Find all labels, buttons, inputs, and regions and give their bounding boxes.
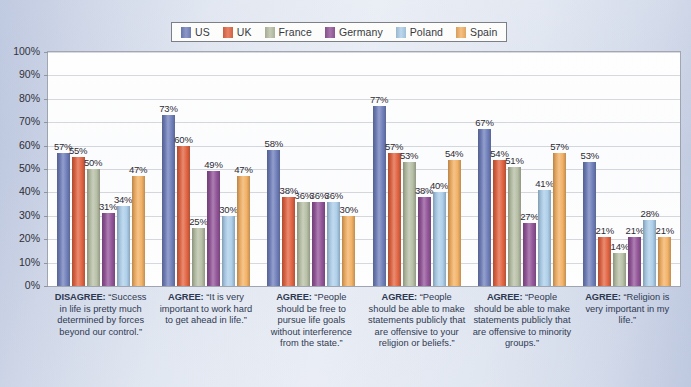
y-axis-tick-label: 70% — [0, 115, 40, 127]
bar-value-label: 55% — [69, 145, 87, 156]
bar-france[interactable]: 50% — [87, 169, 100, 286]
legend-swatch-icon — [396, 27, 406, 38]
legend-item-germany: Germany — [325, 26, 383, 38]
bar-slot: 55% — [72, 52, 85, 286]
y-axis-tick-label: 60% — [0, 139, 40, 151]
bar-germany[interactable]: 36% — [312, 202, 325, 286]
bar-poland[interactable]: 40% — [433, 192, 446, 286]
bar-slot: 57% — [388, 52, 401, 286]
legend-item-uk: UK — [223, 26, 252, 38]
bar-slot: 28% — [643, 52, 656, 286]
bar-poland[interactable]: 36% — [327, 202, 340, 286]
bar-slot: 57% — [57, 52, 70, 286]
legend-swatch-icon — [223, 27, 233, 38]
bar-value-label: 28% — [641, 208, 659, 219]
y-axis-tick-label: 90% — [0, 68, 40, 80]
bar-slot: 47% — [237, 52, 250, 286]
bar-uk[interactable]: 55% — [72, 157, 85, 286]
bar-slot: 34% — [117, 52, 130, 286]
bar-value-label: 54% — [445, 148, 463, 159]
y-axis-tick-label: 100% — [0, 45, 40, 57]
bar-value-label: 34% — [114, 194, 132, 205]
legend-swatch-icon — [456, 27, 466, 38]
y-axis-tick-label: 80% — [0, 92, 40, 104]
bar-spain[interactable]: 21% — [658, 237, 671, 286]
y-axis-tick-label: 50% — [0, 162, 40, 174]
bar-germany[interactable]: 27% — [523, 223, 536, 286]
bar-slot: 57% — [553, 52, 566, 286]
bar-france[interactable]: 51% — [508, 167, 521, 286]
bar-value-label: 51% — [505, 155, 523, 166]
bar-germany[interactable]: 31% — [102, 213, 115, 286]
bar-uk[interactable]: 60% — [177, 146, 190, 286]
bar-poland[interactable]: 28% — [643, 220, 656, 286]
legend-item-poland: Poland — [396, 26, 443, 38]
bar-spain[interactable]: 54% — [448, 160, 461, 286]
bar-value-label: 27% — [520, 211, 538, 222]
bar-slot: 27% — [523, 52, 536, 286]
category-labels: DISAGREE: “Success in life is pretty muc… — [48, 292, 680, 350]
bar-slot: 38% — [282, 52, 295, 286]
bar-us[interactable]: 53% — [583, 162, 596, 286]
bar-poland[interactable]: 41% — [538, 190, 551, 286]
bar-poland[interactable]: 30% — [222, 216, 235, 286]
bar-value-label: 50% — [84, 157, 102, 168]
bar-spain[interactable]: 30% — [342, 216, 355, 286]
bar-slot: 54% — [448, 52, 461, 286]
bar-value-label: 30% — [219, 204, 237, 215]
bar-us[interactable]: 73% — [162, 115, 175, 286]
bar-uk[interactable]: 38% — [282, 197, 295, 286]
bar-spain[interactable]: 47% — [237, 176, 250, 286]
bar-value-label: 58% — [265, 138, 283, 149]
category-label-3: AGREE: “People should be free to pursue … — [259, 292, 364, 350]
bar-slot: 38% — [418, 52, 431, 286]
legend-label: Spain — [470, 26, 497, 38]
bar-uk[interactable]: 54% — [493, 160, 506, 286]
bar-slot: 50% — [87, 52, 100, 286]
bar-spain[interactable]: 57% — [553, 153, 566, 286]
legend-swatch-icon — [325, 27, 335, 38]
bar-slot: 60% — [177, 52, 190, 286]
bar-france[interactable]: 36% — [297, 202, 310, 286]
y-tick-mark — [44, 286, 48, 287]
chart-legend: USUKFranceGermanyPolandSpain — [171, 22, 507, 42]
bar-value-label: 47% — [234, 164, 252, 175]
bar-group: 77%57%53%38%40%54% — [364, 52, 469, 286]
bar-slot: 53% — [583, 52, 596, 286]
bar-spain[interactable]: 47% — [132, 176, 145, 286]
legend-item-spain: Spain — [456, 26, 497, 38]
category-label-lead: AGREE: — [168, 292, 204, 302]
category-label-4: AGREE: “People should be able to make st… — [364, 292, 469, 350]
y-axis-tick-label: 20% — [0, 232, 40, 244]
bar-uk[interactable]: 21% — [598, 237, 611, 286]
bar-value-label: 21% — [626, 225, 644, 236]
category-label-2: AGREE: “It is very important to work har… — [153, 292, 258, 350]
category-label-lead: AGREE: — [276, 292, 312, 302]
bar-value-label: 21% — [656, 225, 674, 236]
bar-uk[interactable]: 57% — [388, 153, 401, 286]
bar-value-label: 53% — [400, 150, 418, 161]
bar-france[interactable]: 53% — [403, 162, 416, 286]
legend-item-us: US — [181, 26, 210, 38]
bar-value-label: 21% — [596, 225, 614, 236]
bar-france[interactable]: 25% — [192, 228, 205, 287]
bar-us[interactable]: 58% — [267, 150, 280, 286]
bar-us[interactable]: 57% — [57, 153, 70, 286]
bar-slot: 41% — [538, 52, 551, 286]
category-label-5: AGREE: “People should be able to make st… — [469, 292, 574, 350]
bar-germany[interactable]: 49% — [207, 171, 220, 286]
bar-slot: 67% — [478, 52, 491, 286]
bar-germany[interactable]: 21% — [628, 237, 641, 286]
bar-value-label: 57% — [550, 141, 568, 152]
bar-france[interactable]: 14% — [613, 253, 626, 286]
bar-slot: 36% — [312, 52, 325, 286]
bar-value-label: 36% — [325, 190, 343, 201]
bar-us[interactable]: 67% — [478, 129, 491, 286]
bar-group: 67%54%51%27%41%57% — [469, 52, 574, 286]
bar-value-label: 60% — [174, 134, 192, 145]
bar-poland[interactable]: 34% — [117, 206, 130, 286]
y-axis-tick-label: 0% — [0, 279, 40, 291]
bar-us[interactable]: 77% — [373, 106, 386, 286]
legend-label: France — [279, 26, 312, 38]
bar-germany[interactable]: 38% — [418, 197, 431, 286]
